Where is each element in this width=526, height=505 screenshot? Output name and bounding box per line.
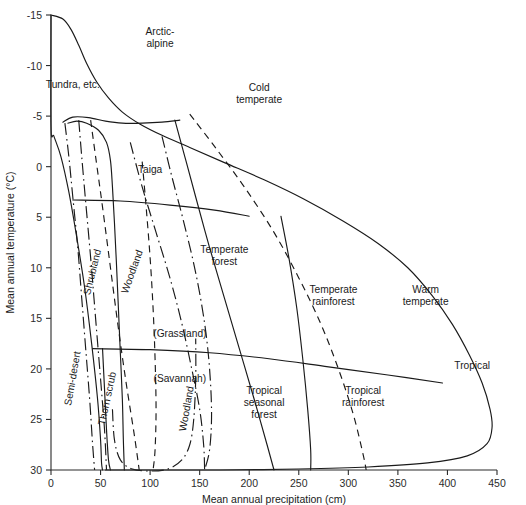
biome-labels: Arctic-alpineTundra, etc.TaigaColdtemper… <box>46 26 490 432</box>
biome-label-shrubland: Shrubland <box>81 248 103 296</box>
biome-label-semi-desert: Semi-desert <box>62 350 82 406</box>
y-tick-label: 15 <box>30 312 42 324</box>
boundary-tundra-inner-solid <box>68 121 124 470</box>
y-tick-label: 5 <box>36 211 42 223</box>
biome-label-arctic-alpine: Arctic-alpine <box>146 26 175 49</box>
x-tick-label: 150 <box>191 477 209 489</box>
whittaker-biome-diagram: 050100150200250300350400450-15-10-505101… <box>0 0 526 505</box>
boundary-horizontal-divider-cool <box>73 200 249 216</box>
x-tick-label: 200 <box>240 477 258 489</box>
x-tick-label: 300 <box>340 477 358 489</box>
x-tick-label: 250 <box>290 477 308 489</box>
boundary-tundra-dashdot-a <box>65 123 95 470</box>
x-tick-label: 50 <box>95 477 107 489</box>
biome-label-grassland: (Grassland) <box>153 328 206 339</box>
y-tick-label: 0 <box>36 161 42 173</box>
biome-label-tropical: Tropical <box>454 360 490 371</box>
y-tick-label: 25 <box>30 413 42 425</box>
boundary-tropical-seasonal-right <box>281 216 311 470</box>
biome-label-woodland: Woodland <box>119 248 145 295</box>
biome-label-temperate-forest: Temperateforest <box>200 244 248 267</box>
y-tick-label: -5 <box>33 110 42 122</box>
biome-label-tundra-etc: Tundra, etc. <box>46 79 100 90</box>
biome-label-thorn-scrub: Thorn scrub <box>96 370 118 426</box>
boundary-horizontal-divider-warm <box>93 349 443 383</box>
biome-label-savannah: (Savannah) <box>154 373 207 384</box>
biome-label-cold-temperate: Coldtemperate <box>236 82 282 105</box>
y-tick-label: -10 <box>27 60 42 72</box>
y-tick-label: 30 <box>30 464 42 476</box>
y-axis-title: Mean annual temperature (°C) <box>4 172 16 314</box>
y-tick-label: 10 <box>30 262 42 274</box>
y-tick-label: -15 <box>27 9 42 21</box>
x-tick-label: 450 <box>488 477 506 489</box>
biome-label-tropical-rainforest: Tropicalrainforest <box>342 385 385 408</box>
y-tick-label: 20 <box>30 363 42 375</box>
x-axis-title: Mean annual precipitation (cm) <box>202 493 346 505</box>
boundary-savannah-dashed <box>142 162 156 470</box>
biome-label-taiga: Taiga <box>138 164 163 175</box>
biome-label-temperate-rainforest: Temperaterainforest <box>309 284 357 307</box>
x-tick-label: 0 <box>48 477 54 489</box>
x-tick-label: 100 <box>141 477 159 489</box>
x-tick-label: 400 <box>439 477 457 489</box>
plot-svg: 050100150200250300350400450-15-10-505101… <box>0 0 526 505</box>
x-tick-label: 350 <box>389 477 407 489</box>
boundary-tundra-cap-upper <box>63 117 180 124</box>
biome-label-warm-temperate: Warmtemperate <box>403 284 449 307</box>
biome-label-tropical-seasonal-forest: Tropicalseasonalforest <box>244 385 285 420</box>
